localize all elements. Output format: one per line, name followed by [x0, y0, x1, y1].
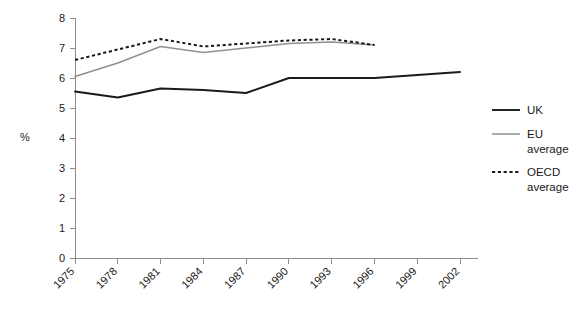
x-tick-label: 1993	[307, 265, 333, 291]
y-tick-label: 8	[59, 12, 65, 24]
y-tick-label: 4	[59, 132, 65, 144]
y-tick-label: 7	[59, 42, 65, 54]
y-axis-title: %	[20, 131, 30, 143]
y-tick-label: 1	[59, 222, 65, 234]
x-tick-label: 1984	[179, 265, 205, 291]
x-tick-label: 1978	[93, 265, 119, 291]
x-tick-label: 1999	[393, 265, 419, 291]
chart-legend: UKEUaverageOECDaverage	[492, 104, 569, 193]
y-tick-label: 5	[59, 102, 65, 114]
x-tick-label: 1975	[51, 265, 77, 291]
x-tick-label: 2002	[436, 265, 462, 291]
y-tick-label: 6	[59, 72, 65, 84]
x-tick-label: 1981	[136, 265, 162, 291]
chart-canvas: 012345678 197519781981198419871990199319…	[0, 0, 583, 315]
legend-label-line2: average	[527, 181, 569, 193]
x-tick-label: 1990	[265, 265, 291, 291]
y-axis: 012345678	[59, 12, 75, 264]
line-chart: 012345678 197519781981198419871990199319…	[0, 0, 583, 315]
x-tick-label: 1996	[350, 265, 376, 291]
y-tick-label: 3	[59, 162, 65, 174]
legend-label: OECD	[527, 166, 560, 178]
data-series-group	[75, 39, 460, 98]
legend-label: EU	[527, 128, 543, 140]
x-axis: 1975197819811984198719901993199619992002	[51, 258, 478, 291]
series-line-eu-average	[75, 42, 374, 77]
y-tick-label: 2	[59, 192, 65, 204]
x-tick-label: 1987	[222, 265, 248, 291]
legend-label-line2: average	[527, 143, 569, 155]
legend-label: UK	[527, 104, 543, 116]
y-tick-label: 0	[59, 252, 65, 264]
series-line-uk	[75, 72, 460, 98]
